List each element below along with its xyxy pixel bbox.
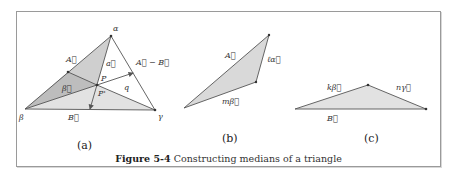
label-point-P: P [100, 74, 107, 83]
label-c-k-beta: kβ⃗ [327, 83, 341, 92]
midpoint-ba [67, 71, 70, 74]
label-b-A: A⃗ [224, 51, 236, 60]
figure-caption: Figure 5-4 Constructing medians of a tri… [0, 153, 457, 164]
label-point-P-prime: P' [97, 89, 106, 98]
caption-text: Constructing medians of a triangle [174, 153, 342, 164]
label-b-l-alpha: ℓα⃗ [267, 55, 281, 64]
label-q: q [124, 83, 129, 92]
vertex-gamma [154, 109, 157, 112]
label-alpha: α [113, 24, 119, 33]
label-b-m-beta: mβ⃗ [222, 97, 239, 106]
panel-c-diagram: kβ⃗ nγ⃗ B⃗ (c) [295, 83, 427, 145]
panel-b-diagram: A⃗ ℓα⃗ mβ⃗ (b) [184, 34, 281, 145]
vertex-c-top [367, 84, 370, 87]
label-beta: β [18, 113, 24, 122]
label-vector-B: B⃗ [67, 113, 79, 122]
label-vector-a: a⃗ [106, 59, 116, 68]
point-p [96, 84, 99, 87]
panel-a-diagram: α β γ A⃗ B⃗ a⃗ β⃗ A⃗ − B⃗ q P P' (a) [18, 24, 169, 152]
caption-label: Figure 5-4 [115, 153, 170, 164]
label-vector-beta: β⃗ [61, 84, 72, 93]
panel-b-label: (b) [222, 132, 238, 145]
vertex-c-right [425, 108, 428, 111]
label-vector-A: A⃗ [65, 55, 77, 64]
vertex-alpha [110, 35, 113, 38]
label-vector-A-minus-B: A⃗ − B⃗ [135, 58, 169, 67]
label-c-B: B⃗ [326, 114, 338, 123]
vertex-b-right [255, 81, 257, 83]
label-c-n-gamma: nγ⃗ [396, 83, 411, 92]
panel-c-label: (c) [364, 132, 379, 145]
label-gamma: γ [158, 112, 163, 121]
panel-a-label: (a) [77, 139, 92, 152]
vertex-b-top [268, 34, 270, 36]
